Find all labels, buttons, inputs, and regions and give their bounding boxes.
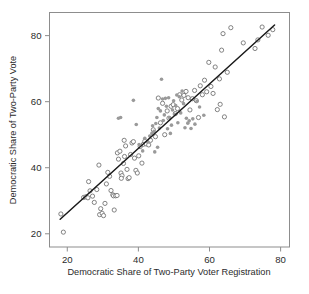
data-point-filled bbox=[171, 108, 175, 112]
data-point-filled bbox=[153, 150, 157, 154]
x-axis-label: Democratic Share of Two-Party Voter Regi… bbox=[67, 267, 270, 277]
x-tick-label: 60 bbox=[204, 254, 215, 265]
scatter-plot-figure: 20406080 20406080 Democratic Share of Tw… bbox=[0, 0, 309, 294]
data-point-filled bbox=[185, 116, 189, 120]
data-point-open bbox=[101, 214, 105, 218]
data-point-open bbox=[198, 84, 202, 88]
data-point-filled bbox=[189, 127, 193, 131]
data-point-open bbox=[213, 65, 217, 69]
data-point-open bbox=[59, 212, 63, 216]
data-point-open bbox=[188, 108, 192, 112]
data-point-open bbox=[200, 93, 204, 97]
data-point-open bbox=[225, 70, 229, 74]
data-point-filled bbox=[170, 123, 174, 127]
data-point-open bbox=[211, 91, 215, 95]
data-point-open bbox=[160, 101, 164, 105]
plot-canvas: 20406080 20406080 Democratic Share of Tw… bbox=[0, 0, 309, 294]
data-point-open bbox=[165, 109, 169, 113]
data-point-filled bbox=[134, 123, 138, 127]
data-point-filled bbox=[163, 113, 167, 117]
data-point-open bbox=[135, 171, 139, 175]
data-point-filled bbox=[160, 77, 164, 81]
data-point-filled bbox=[119, 116, 123, 120]
data-point-open bbox=[217, 77, 221, 81]
data-point-filled bbox=[202, 113, 206, 117]
data-point-open bbox=[205, 90, 209, 94]
data-point-filled bbox=[193, 122, 197, 126]
data-point-open bbox=[103, 201, 107, 205]
data-point-filled bbox=[176, 121, 180, 125]
data-point-open bbox=[116, 157, 120, 161]
data-point-open bbox=[92, 200, 96, 204]
data-point-open bbox=[184, 89, 188, 93]
data-point-open bbox=[87, 180, 91, 184]
data-point-filled bbox=[172, 99, 176, 103]
data-point-open bbox=[104, 182, 108, 186]
data-point-filled bbox=[141, 149, 145, 153]
data-point-open bbox=[229, 26, 233, 30]
data-point-open bbox=[125, 167, 129, 171]
y-axis-label: Democratic Share of Two-Party Vote bbox=[8, 56, 18, 204]
data-point-open bbox=[99, 207, 103, 211]
data-point-open bbox=[180, 98, 184, 102]
data-point-open bbox=[119, 176, 123, 180]
data-point-open bbox=[215, 108, 219, 112]
data-point-open bbox=[122, 138, 126, 142]
x-tick-label: 20 bbox=[62, 254, 73, 265]
data-point-filled bbox=[166, 127, 170, 131]
data-point-open bbox=[156, 96, 160, 100]
data-point-open bbox=[131, 140, 135, 144]
data-point-filled bbox=[143, 137, 147, 141]
data-point-filled bbox=[151, 124, 155, 128]
data-point-open bbox=[260, 25, 264, 29]
data-point-open bbox=[218, 102, 222, 106]
data-point-filled bbox=[195, 100, 199, 104]
data-point-open bbox=[182, 93, 186, 97]
data-point-filled bbox=[182, 102, 186, 106]
data-point-open bbox=[118, 149, 122, 153]
data-point-filled bbox=[198, 105, 202, 109]
data-point-open bbox=[127, 176, 131, 180]
data-point-filled bbox=[155, 116, 159, 120]
data-point-open bbox=[109, 188, 113, 192]
y-tick-label: 20 bbox=[31, 228, 42, 239]
data-point-filled bbox=[159, 109, 163, 113]
data-point-filled bbox=[183, 126, 187, 130]
data-point-open bbox=[122, 154, 126, 158]
data-point-open bbox=[112, 208, 116, 212]
data-point-open bbox=[115, 193, 119, 197]
data-point-open bbox=[207, 60, 211, 64]
data-point-open bbox=[132, 156, 136, 160]
data-point-open bbox=[123, 144, 127, 148]
data-point-open bbox=[163, 133, 167, 137]
data-point-filled bbox=[161, 119, 165, 123]
data-point-filled bbox=[180, 89, 184, 93]
figure-background bbox=[0, 0, 309, 294]
data-point-open bbox=[241, 41, 245, 45]
data-point-open bbox=[202, 78, 206, 82]
data-point-filled bbox=[132, 99, 136, 103]
data-point-filled bbox=[177, 95, 181, 99]
data-point-open bbox=[97, 163, 101, 167]
x-tick-label: 80 bbox=[275, 254, 286, 265]
data-point-filled bbox=[174, 104, 178, 108]
data-point-open bbox=[90, 194, 94, 198]
data-point-filled bbox=[164, 97, 168, 101]
y-tick-label: 60 bbox=[31, 96, 42, 107]
data-point-open bbox=[266, 33, 270, 37]
data-point-filled bbox=[187, 119, 191, 123]
data-point-open bbox=[253, 46, 257, 50]
data-point-open bbox=[222, 115, 226, 119]
data-point-open bbox=[221, 32, 225, 36]
data-point-filled bbox=[154, 122, 158, 126]
data-point-filled bbox=[191, 117, 195, 121]
y-tick-label: 40 bbox=[31, 162, 42, 173]
data-point-open bbox=[192, 88, 196, 92]
data-point-open bbox=[186, 96, 190, 100]
data-point-open bbox=[61, 230, 65, 234]
data-point-open bbox=[219, 48, 223, 52]
data-point-open bbox=[196, 115, 200, 119]
data-point-open bbox=[137, 154, 141, 158]
y-tick-label: 80 bbox=[31, 30, 42, 41]
data-point-open bbox=[140, 161, 144, 165]
